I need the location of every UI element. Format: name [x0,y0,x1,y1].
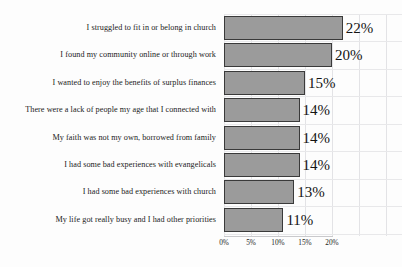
bar [224,16,343,40]
bar-row: I wanted to enjoy the benefits of surplu… [0,71,402,95]
category-label: There were a lack of people my age that … [0,98,216,122]
x-axis-tick-labels: 0% 5% 10% 15% 20% [0,238,402,252]
x-tick-label: 15% [298,238,311,247]
bar-value-label: 22% [343,16,374,40]
category-label: I had some bad experiences with church [0,180,216,204]
x-tick-label: 0% [219,238,229,247]
bar-value-label: 13% [294,180,325,204]
x-tick-label: 5% [246,238,256,247]
x-tick-label: 10% [271,238,284,247]
bar [224,98,300,122]
bar-row: I had some bad experiences with evangeli… [0,153,402,177]
category-label: My faith was not my own, borrowed from f… [0,126,216,150]
category-label: I found my community online or through w… [0,43,216,67]
bar-row: I had some bad experiences with church 1… [0,180,402,204]
bar-value-label: 14% [300,126,331,150]
bar-value-label: 15% [305,71,336,95]
horizontal-gridline [224,151,402,152]
bar [224,180,294,204]
category-label: I struggled to fit in or belong in churc… [0,16,216,40]
x-tick-label: 20% [325,238,338,247]
bar [224,71,305,95]
horizontal-gridline [224,41,402,42]
bar [224,153,300,177]
bar-value-label: 14% [300,98,331,122]
horizontal-gridline [224,234,402,235]
category-label: I wanted to enjoy the benefits of surplu… [0,71,216,95]
bar-row: I struggled to fit in or belong in churc… [0,16,402,40]
bar [224,208,283,232]
category-label: My life got really busy and I had other … [0,208,216,232]
bar-value-label: 20% [332,43,363,67]
bar-chart: I struggled to fit in or belong in churc… [0,0,402,267]
bar-value-label: 11% [283,208,313,232]
x-axis-line [224,236,333,237]
bar [224,43,332,67]
bar-value-label: 14% [300,153,331,177]
bar-row: I found my community online or through w… [0,43,402,67]
horizontal-gridline [224,14,402,15]
bar-row: My faith was not my own, borrowed from f… [0,126,402,150]
bar-row: There were a lack of people my age that … [0,98,402,122]
horizontal-gridline [224,96,402,97]
bar [224,126,300,150]
category-label: I had some bad experiences with evangeli… [0,153,216,177]
bar-row: My life got really busy and I had other … [0,208,402,232]
